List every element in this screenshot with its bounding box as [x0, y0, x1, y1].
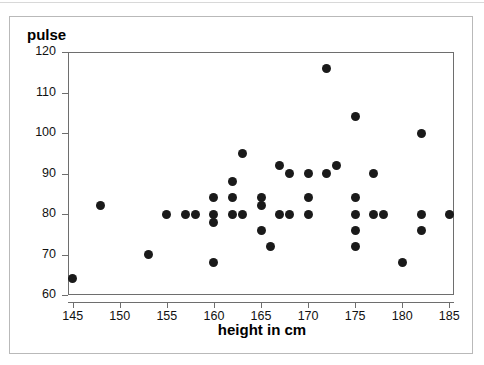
- y-tick-mark: [62, 214, 68, 215]
- x-tick-mark: [73, 302, 74, 308]
- y-tick-label: 90: [22, 167, 56, 179]
- x-tick-mark: [261, 302, 262, 308]
- y-tick-mark: [62, 174, 68, 175]
- y-tick-mark: [62, 133, 68, 134]
- plot-area: [68, 52, 454, 295]
- x-axis-title-wrap: height in cm: [0, 321, 484, 338]
- y-tick-label: 120: [22, 45, 56, 57]
- y-tick-mark: [62, 255, 68, 256]
- x-tick-mark: [402, 302, 403, 308]
- x-tick-mark: [120, 302, 121, 308]
- y-tick-mark: [62, 52, 68, 53]
- x-tick-mark: [355, 302, 356, 308]
- y-tick-label: 80: [22, 207, 56, 219]
- y-tick-label: 60: [22, 288, 56, 300]
- x-axis-title: height in cm: [218, 321, 306, 338]
- x-tick-mark: [449, 302, 450, 308]
- y-tick-label: 70: [22, 248, 56, 260]
- scatter-chart: pulse 60708090100110120 1451501551601651…: [0, 0, 484, 365]
- y-tick-label: 110: [22, 86, 56, 98]
- x-tick-mark: [214, 302, 215, 308]
- y-tick-mark: [62, 295, 68, 296]
- y-axis-title: pulse: [27, 26, 66, 43]
- y-tick-mark: [62, 93, 68, 94]
- x-tick-mark: [167, 302, 168, 308]
- y-tick-label: 100: [22, 126, 56, 138]
- x-tick-mark: [308, 302, 309, 308]
